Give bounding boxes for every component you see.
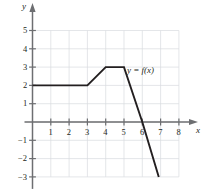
plot-canvas — [0, 0, 209, 196]
x-tick-label: 5 — [122, 128, 126, 137]
y-tick-label: −2 — [18, 154, 27, 163]
x-tick-label: 1 — [48, 128, 52, 137]
x-tick-label: 6 — [140, 128, 144, 137]
y-tick-label: 5 — [23, 26, 27, 35]
x-tick-label: 2 — [67, 128, 71, 137]
x-axis-label: x — [196, 126, 200, 135]
x-tick-label: 4 — [103, 128, 107, 137]
y-tick-label: 1 — [23, 99, 27, 108]
x-tick-label: 8 — [177, 128, 181, 137]
y-tick-label: −1 — [18, 136, 27, 145]
x-tick-label: 3 — [85, 128, 89, 137]
x-tick-label: 7 — [158, 128, 162, 137]
y-tick-label: 4 — [23, 45, 27, 54]
y-tick-label: −3 — [18, 173, 27, 182]
gridlines — [33, 31, 179, 177]
function-graph-figure: 1234567854321−1−2−3 y x y = f(x) — [0, 0, 209, 196]
y-axis-label: y — [22, 2, 26, 11]
y-tick-label: 3 — [23, 63, 27, 72]
y-tick-label: 2 — [23, 81, 27, 90]
function-equation-label: y = f(x) — [127, 66, 154, 75]
